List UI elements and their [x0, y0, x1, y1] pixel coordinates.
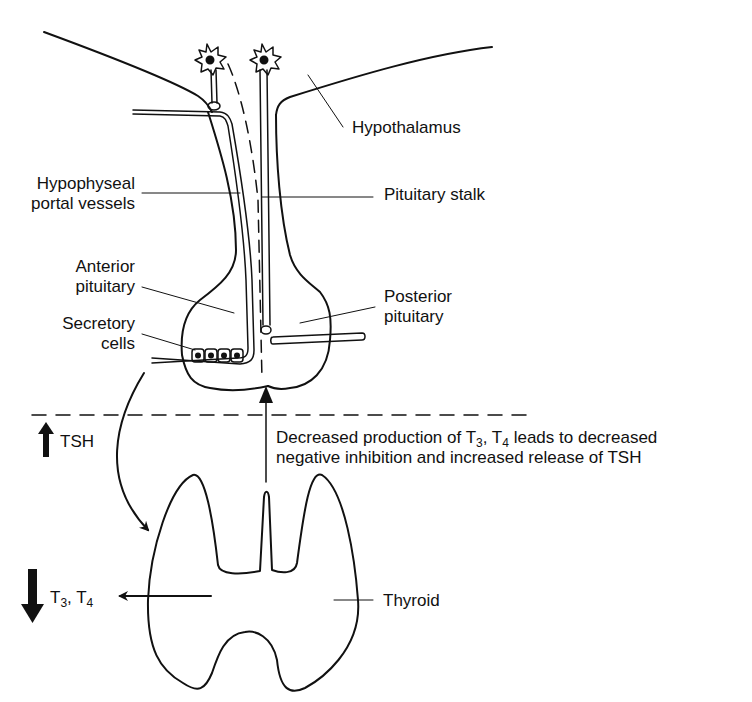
- t3-t4-decrease-icon: [21, 569, 44, 623]
- feedback-explanation: Decreased production of T3, T4 leads to …: [276, 428, 657, 468]
- label-posterior-pituitary: Posterior pituitary: [384, 287, 452, 327]
- leader-lines: [142, 75, 375, 600]
- pituitary-right-outline: [268, 115, 331, 389]
- tsh-arrow: [117, 373, 148, 530]
- feedback-line-1: Decreased production of T3, T4 leads to …: [276, 428, 657, 448]
- label-hypophyseal-portal-vessels: Hypophyseal portal vessels: [31, 174, 135, 214]
- thyroid-gland: [148, 475, 358, 691]
- posterior-vessel: [271, 333, 365, 344]
- label-tsh: TSH: [60, 432, 94, 452]
- dashed-midline: [228, 64, 262, 380]
- label-hypothalamus: Hypothalamus: [352, 118, 461, 138]
- anterior-neuron-axon: [211, 70, 217, 103]
- label-anterior-pituitary: Anterior pituitary: [75, 257, 135, 297]
- hypothalamus-outline-right: [276, 47, 492, 115]
- label-pituitary-stalk: Pituitary stalk: [384, 185, 485, 205]
- label-thyroid: Thyroid: [383, 591, 440, 611]
- feedback-line-2: negative inhibition and increased releas…: [276, 448, 657, 468]
- tsh-increase-icon: [38, 422, 54, 457]
- label-secretory-cells: Secretory cells: [62, 314, 135, 354]
- hypothalamus-outline-left: [44, 32, 212, 112]
- label-t3-t4: T3, T4: [50, 588, 93, 608]
